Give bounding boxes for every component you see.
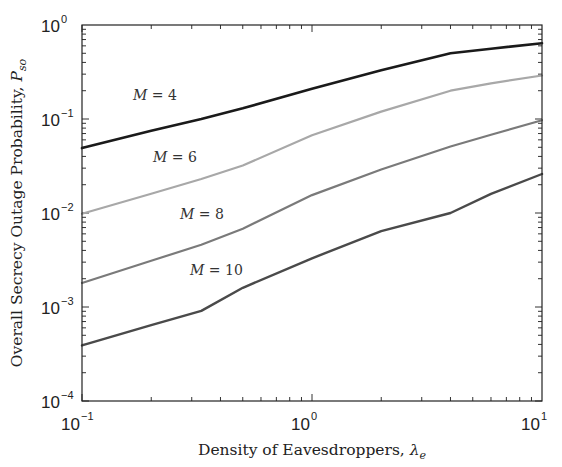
x-tick-label: 10 (291, 415, 310, 434)
p-symbol: P (8, 71, 26, 83)
y-tick-exponent: −1 (61, 107, 74, 119)
y-tick-label: 10 (41, 205, 60, 224)
y-tick-label: 10 (41, 111, 60, 130)
y-tick-exponent: 0 (61, 13, 67, 25)
x-axis-title-text: Density of Eavesdroppers, (198, 441, 410, 459)
series-annotation: M = 10 (189, 262, 243, 278)
x-tick-exponent: −1 (81, 410, 94, 422)
y-tick-label: 10 (41, 393, 60, 412)
y-tick-exponent: −2 (61, 201, 74, 213)
series-annotation: M = 6 (152, 149, 197, 165)
lambda-symbol: λ (409, 441, 420, 459)
x-axis-title: Density of Eavesdroppers, λe (198, 441, 427, 462)
series-annotation: M = 4 (132, 87, 177, 103)
secrecy-outage-chart: 10010−110−210−310−4 10−1100101 M = 4M = … (0, 0, 562, 467)
y-tick-label: 10 (41, 17, 60, 36)
y-tick-exponent: −4 (61, 389, 74, 401)
y-tick-exponent: −3 (61, 295, 74, 307)
y-axis-title-text: Overall Secrecy Outage Probability, (8, 82, 26, 368)
y-axis-title: Overall Secrecy Outage Probability, Pso (8, 58, 29, 367)
x-tick-label: 10 (521, 415, 540, 434)
x-tick-exponent: 1 (541, 410, 547, 422)
lambda-subscript: e (420, 449, 427, 462)
x-tick-exponent: 0 (311, 410, 317, 422)
series-annotation: M = 8 (179, 206, 224, 222)
p-subscript: so (16, 58, 29, 71)
y-tick-label: 10 (41, 299, 60, 318)
x-tick-label: 10 (61, 415, 80, 434)
